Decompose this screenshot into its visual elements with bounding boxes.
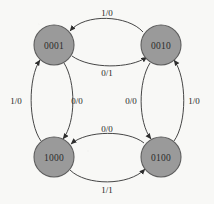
transition-label-0100-to-1000: 0/0	[101, 124, 113, 134]
transition-arc-0100-to-1000	[71, 133, 144, 144]
state-machine-diagram: 0001 0010 1000 0100 1/0 0/1 1/0 0/0 0/0 …	[0, 0, 214, 204]
transition-arc-0010-to-0100	[141, 63, 151, 139]
transition-label-0010-to-0001: 1/0	[101, 8, 113, 18]
state-label-0010: 0010	[151, 41, 171, 51]
transition-label-0001-to-0010: 0/1	[101, 68, 113, 78]
state-node-0010[interactable]: 0010	[141, 25, 181, 65]
transition-arc-0100-to-0010	[174, 60, 184, 141]
transition-label-1000-to-0100: 1/1	[101, 185, 113, 195]
transition-label-1000-to-0001: 1/0	[10, 96, 22, 106]
transition-arc-0010-to-0001	[70, 18, 143, 32]
state-label-1000: 1000	[44, 153, 64, 163]
state-node-0001[interactable]: 0001	[34, 25, 74, 65]
state-label-0100: 0100	[151, 153, 171, 163]
transition-label-0001-to-1000: 0/0	[71, 96, 83, 106]
state-node-1000[interactable]: 1000	[34, 137, 74, 177]
state-node-0100[interactable]: 0100	[141, 137, 181, 177]
transition-label-0010-to-0100: 0/0	[125, 96, 137, 106]
transition-arc-1000-to-0100	[70, 169, 145, 182]
state-label-0001: 0001	[44, 41, 64, 51]
transition-arc-1000-to-0001	[31, 60, 41, 141]
transition-label-0100-to-0010: 1/0	[188, 96, 200, 106]
fsm-canvas: 0001 0010 1000 0100 1/0 0/1 1/0 0/0 0/0 …	[0, 0, 214, 204]
transition-arc-0001-to-0010	[72, 56, 147, 66]
